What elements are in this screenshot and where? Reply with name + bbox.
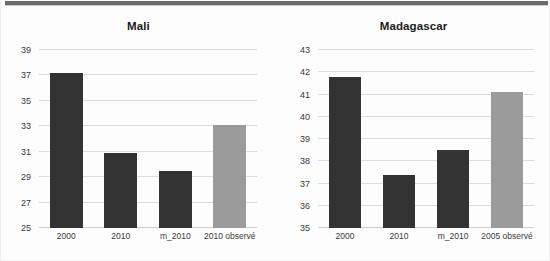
- bar: [383, 175, 415, 228]
- x-axis-tick-label: 2005 observé: [480, 232, 534, 241]
- y-axis-tick-label: 40: [300, 112, 310, 121]
- chart-title: Madagascar: [276, 20, 550, 32]
- x-axis-tick-label: m_2010: [426, 232, 480, 241]
- y-axis-tick-label: 35: [300, 224, 310, 233]
- bar: [491, 92, 523, 228]
- chart-title: Mali: [1, 20, 276, 32]
- bar-group: [39, 50, 257, 228]
- y-axis-tick-label: 31: [21, 147, 31, 156]
- bar-slot: [39, 50, 94, 228]
- y-axis-labels: 353637383940414243: [276, 50, 314, 228]
- x-axis-tick-label: 2000: [39, 232, 94, 241]
- bar: [50, 73, 83, 228]
- bar: [213, 125, 246, 228]
- bar: [329, 77, 361, 228]
- y-axis-tick-label: 36: [300, 201, 310, 210]
- x-axis-tick-label: 2010: [372, 232, 426, 241]
- bar-slot: [94, 50, 149, 228]
- y-axis-tick-label: 27: [21, 198, 31, 207]
- figure-page: Mali 2527293133353739 20002010m_20102010…: [0, 0, 550, 261]
- x-axis-tick-label: 2000: [318, 232, 372, 241]
- bar: [159, 171, 192, 228]
- bar-group: [318, 50, 534, 228]
- bar-slot: [426, 50, 480, 228]
- y-axis-tick-label: 39: [21, 46, 31, 55]
- bar-slot: [318, 50, 372, 228]
- bar-slot: [372, 50, 426, 228]
- y-axis-tick-label: 37: [300, 179, 310, 188]
- y-axis-labels: 2527293133353739: [1, 50, 35, 228]
- x-axis-tick-label: 2010: [94, 232, 149, 241]
- x-axis-labels: 20002010m_20102005 observé: [318, 232, 534, 241]
- plot-area: [39, 50, 257, 228]
- y-axis-tick-label: 43: [300, 46, 310, 55]
- x-axis-labels: 20002010m_20102010 observé: [39, 232, 257, 241]
- bar: [104, 153, 137, 228]
- charts-container: Mali 2527293133353739 20002010m_20102010…: [1, 6, 550, 261]
- bar-slot: [203, 50, 258, 228]
- y-axis-tick-label: 42: [300, 68, 310, 77]
- y-axis-tick-label: 35: [21, 96, 31, 105]
- bar-slot: [148, 50, 203, 228]
- chart-panel-madagascar: Madagascar 353637383940414243 20002010m_…: [276, 6, 550, 261]
- x-axis-tick-label: m_2010: [148, 232, 203, 241]
- plot-area: [318, 50, 534, 228]
- y-axis-tick-label: 29: [21, 173, 31, 182]
- y-axis-tick-label: 33: [21, 122, 31, 131]
- y-axis-tick-label: 38: [300, 157, 310, 166]
- y-axis-tick-label: 37: [21, 71, 31, 80]
- y-axis-tick-label: 41: [300, 90, 310, 99]
- chart-panel-mali: Mali 2527293133353739 20002010m_20102010…: [1, 6, 276, 261]
- y-axis-tick-label: 39: [300, 135, 310, 144]
- y-axis-tick-label: 25: [21, 224, 31, 233]
- bar-slot: [480, 50, 534, 228]
- x-axis-tick-label: 2010 observé: [203, 232, 258, 241]
- bar: [437, 150, 469, 228]
